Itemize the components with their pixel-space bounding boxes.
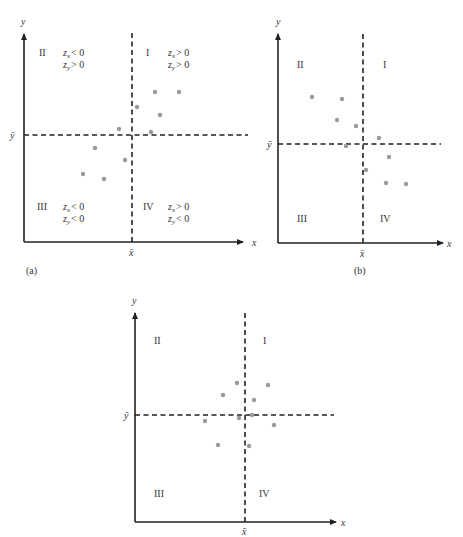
quadrant-label-ii: II (297, 59, 304, 70)
y-axis-label: y (131, 295, 137, 306)
data-point (377, 136, 381, 140)
quadrant-i-condition-zy: zy> 0 (167, 59, 189, 72)
y-axis-label: y (275, 16, 281, 27)
y-mean-label: ȳ (266, 139, 272, 150)
data-point (216, 443, 220, 447)
quadrant-label-ii: II (39, 47, 46, 58)
data-point (272, 423, 276, 427)
x-axis-label: x (340, 517, 346, 528)
data-point (310, 95, 314, 99)
caption-a: (a) (26, 265, 37, 277)
data-point (117, 127, 121, 131)
data-point (247, 444, 251, 448)
panel-c: y x x̄ ȳ II I III IV (123, 295, 346, 537)
x-mean-label: x̄ (359, 248, 365, 259)
quadrant-label-i: I (146, 47, 149, 58)
data-point (153, 90, 157, 94)
x-axis-label: x (446, 238, 452, 249)
quadrant-label-iv: IV (143, 201, 154, 212)
data-point (250, 413, 254, 417)
quadrant-label-iv: IV (259, 488, 270, 499)
data-point (335, 118, 339, 122)
data-point (364, 168, 368, 172)
data-point (354, 124, 358, 128)
y-mean-label: ȳ (9, 130, 15, 141)
quadrant-label-iv: IV (380, 213, 391, 224)
quadrant-ii-condition-zy: zy> 0 (62, 59, 84, 72)
x-mean-label: x̄ (128, 247, 134, 258)
scatter-figure: y x x̄ ȳ (a) II zx< 0 zy> 0 I zx> 0 zy> … (0, 0, 463, 537)
quadrant-iii-condition-zy: zy< 0 (62, 213, 84, 226)
data-point (203, 419, 207, 423)
data-point (237, 416, 241, 420)
panel-b: y x x̄ ȳ (b) II I III IV (266, 16, 452, 277)
data-point (340, 97, 344, 101)
data-point (252, 398, 256, 402)
data-point (387, 155, 391, 159)
data-point (235, 381, 239, 385)
quadrant-iv-condition-zy: zy< 0 (167, 213, 189, 226)
data-point (158, 113, 162, 117)
quadrant-label-iii: III (37, 201, 47, 212)
data-point (135, 105, 139, 109)
data-point (221, 393, 225, 397)
y-mean-label: ȳ (123, 410, 129, 421)
data-point (266, 383, 270, 387)
data-point (177, 90, 181, 94)
quadrant-label-i: I (263, 335, 266, 346)
data-point (404, 182, 408, 186)
x-mean-label: x̄ (241, 526, 247, 537)
data-point (149, 130, 153, 134)
panel-a: y x x̄ ȳ (a) II zx< 0 zy> 0 I zx> 0 zy> … (9, 16, 257, 277)
data-point (81, 172, 85, 176)
quadrant-label-ii: II (154, 335, 161, 346)
y-axis-label: y (20, 16, 26, 27)
quadrant-label-iii: III (154, 488, 164, 499)
quadrant-label-iii: III (297, 213, 307, 224)
data-point (93, 146, 97, 150)
data-point (123, 158, 127, 162)
quadrant-label-i: I (383, 59, 386, 70)
data-point (344, 144, 348, 148)
data-point (102, 177, 106, 181)
x-axis-label: x (251, 237, 257, 248)
caption-b: (b) (354, 265, 366, 277)
data-point (384, 181, 388, 185)
data-points-b (310, 95, 408, 186)
